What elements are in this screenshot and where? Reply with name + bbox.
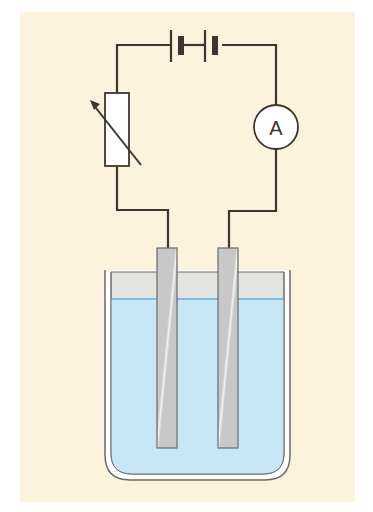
wire-left-electrode (117, 165, 168, 249)
electrode-left (157, 248, 177, 448)
beaker-icon (105, 270, 290, 480)
electrolysis-diagram: A (0, 0, 373, 512)
variable-resistor-icon (90, 93, 141, 166)
electrode-right (218, 248, 238, 448)
wire-top-left (117, 45, 171, 93)
ammeter-icon: A (254, 105, 298, 149)
wire-top-right (222, 45, 276, 105)
ammeter-label: A (269, 117, 283, 139)
electrolyte-liquid (111, 299, 284, 474)
wire-right-electrode (229, 149, 276, 249)
